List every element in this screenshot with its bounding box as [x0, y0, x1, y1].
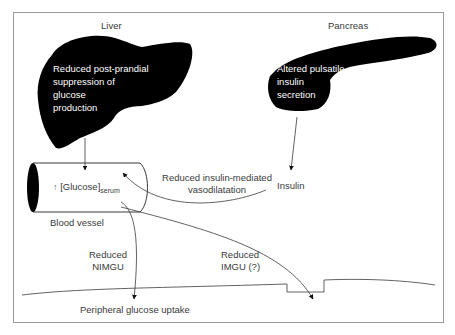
up-arrow-icon: ↑: [53, 182, 58, 192]
pancreas-description-line-1: Altered pulsatile: [277, 63, 345, 75]
liver-description-line-3: glucose: [53, 89, 86, 101]
diagram-graphics: [0, 0, 455, 335]
serum-subscript: serum: [100, 187, 119, 194]
liver-description-line-1: Reduced post-prandial: [53, 63, 149, 75]
imgu-line-2: IMGU (?): [221, 261, 260, 273]
vessel-opening: [27, 163, 39, 212]
insulin-label: Insulin: [277, 180, 304, 192]
vasodilatation-line-2: vasodilatation: [158, 184, 276, 196]
glucose-text: [Glucose]: [60, 181, 100, 192]
liver-title: Liver: [101, 20, 122, 32]
pancreas-description-line-3: secretion: [277, 89, 316, 101]
peripheral-glucose-uptake-label: Peripheral glucose uptake: [80, 304, 190, 316]
vasodilatation-line-1: Reduced insulin-mediated: [158, 172, 276, 184]
pancreas-to-insulin-arrow: [291, 117, 297, 170]
cell-membrane-line: [22, 279, 435, 295]
nimgu-line-1: Reduced: [88, 249, 128, 261]
imgu-line-1: Reduced: [221, 249, 259, 261]
imgu-arrow: [121, 207, 313, 299]
blood-vessel-caption: Blood vessel: [50, 217, 104, 229]
pancreas-description-line-2: insulin: [277, 76, 304, 88]
pancreas-title: Pancreas: [328, 20, 368, 32]
liver-description-line-4: production: [53, 102, 97, 114]
glucose-serum-label: ↑ [Glucose]serum: [53, 181, 120, 197]
nimgu-line-2: NIMGU: [88, 261, 128, 273]
diabetes-pathophysiology-diagram: Liver Reduced post-prandial suppression …: [0, 0, 455, 335]
liver-description-line-2: suppression of: [53, 76, 115, 88]
